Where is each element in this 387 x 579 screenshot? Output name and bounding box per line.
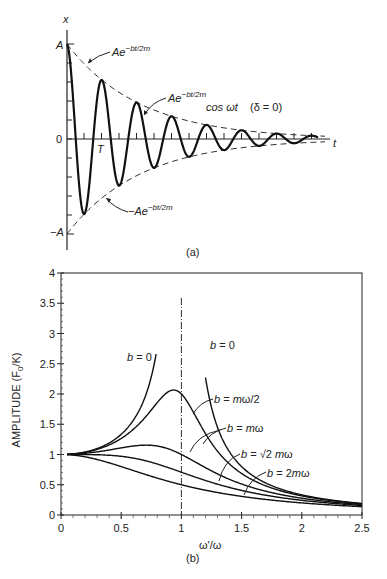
b-curves bbox=[67, 354, 362, 507]
label-b-zero-right: b = 0 bbox=[210, 339, 235, 351]
b-y-tick-label: 1 bbox=[49, 449, 55, 461]
a-tick-zero: 0 bbox=[56, 133, 62, 145]
b-y-tick-label: 3 bbox=[49, 328, 55, 340]
figure-canvas: x t A 0 −A T Ae−bt/2m Ae−bt/2m cos ωt (δ… bbox=[0, 0, 387, 579]
figure-b-caption: (b) bbox=[186, 552, 199, 564]
b-y-tick-label: 0.5 bbox=[40, 479, 55, 491]
b-x-tick-label: 1.5 bbox=[234, 522, 249, 534]
label-b-mw: b = mω bbox=[227, 422, 264, 434]
a-x-axis-label: t bbox=[333, 137, 337, 149]
b-x-tick-label: 1 bbox=[178, 522, 184, 534]
b-x-tick-label: 0 bbox=[58, 522, 64, 534]
figure-b-resonance-curves: 00.511.522.533.54 00.511.522.5 AMPLITUDE… bbox=[10, 267, 370, 564]
b-y-tick-label: 0 bbox=[49, 509, 55, 521]
lower-envelope-curve bbox=[67, 142, 325, 234]
label-lower-envelope: −Ae−bt/2m bbox=[128, 203, 173, 217]
label-upper-envelope: Ae−bt/2m bbox=[111, 44, 150, 58]
damped-signal-curve bbox=[67, 44, 318, 214]
label-signal-phase: (δ = 0) bbox=[250, 101, 282, 113]
b-y-axis-label: AMPLITUDE (F0/K) bbox=[10, 353, 25, 448]
b-x-tick-label: 2.5 bbox=[354, 522, 369, 534]
b-plot-frame bbox=[61, 273, 362, 515]
label-signal-cos: cos ωt bbox=[206, 101, 239, 113]
b-y-tick-label: 4 bbox=[49, 267, 55, 279]
a-y-axis-label: x bbox=[62, 13, 69, 25]
b-y-tick-label: 1.5 bbox=[40, 418, 55, 430]
figure-a-caption: (a) bbox=[186, 246, 199, 258]
b-x-tick-label: 2 bbox=[299, 522, 305, 534]
label-signal: Ae−bt/2m bbox=[167, 90, 206, 104]
period-label: T bbox=[97, 143, 105, 155]
label-b-2mw: b = 2mω bbox=[267, 467, 310, 479]
callout-arrow-sqrt2 bbox=[219, 454, 240, 481]
b-x-axis-label: ω'/ω bbox=[199, 539, 222, 551]
b-y-ticks: 00.511.522.533.54 bbox=[40, 267, 64, 521]
b-y-tick-label: 3.5 bbox=[40, 297, 55, 309]
curve-b-m-2 bbox=[67, 390, 362, 504]
curve-b-0 bbox=[67, 354, 156, 454]
a-tick-minus-A: −A bbox=[50, 226, 64, 238]
b-y-tick-label: 2 bbox=[49, 388, 55, 400]
figure-a-damped-oscillation: x t A 0 −A T Ae−bt/2m Ae−bt/2m cos ωt (δ… bbox=[50, 13, 337, 258]
callout-arrow-signal bbox=[144, 98, 166, 115]
label-b-sqrt2-mw: b = √2 mω bbox=[241, 448, 293, 460]
b-x-tick-label: 0.5 bbox=[114, 522, 129, 534]
b-y-tick-label: 2.5 bbox=[40, 358, 55, 370]
label-b-zero-left: b = 0 bbox=[127, 351, 152, 363]
a-tick-A: A bbox=[55, 39, 63, 51]
curve-b-m- bbox=[67, 445, 362, 505]
label-b-mw-half: b = mω/2 bbox=[214, 393, 260, 405]
